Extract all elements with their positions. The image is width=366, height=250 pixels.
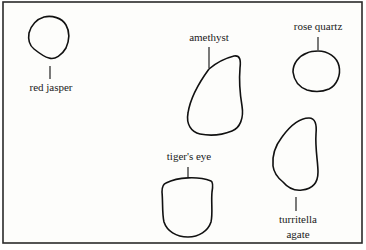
tigers-eye-label: tiger's eye xyxy=(167,150,212,162)
turritella-agate-label-line-2: agate xyxy=(286,228,309,240)
turritella-agate-label-line-1: turritella xyxy=(279,213,317,225)
stones-diagram: red jasper amethyst rose quartz turritel… xyxy=(0,0,366,250)
amethyst-label: amethyst xyxy=(189,31,229,43)
diagram-frame xyxy=(3,2,362,243)
red-jasper-label: red jasper xyxy=(29,81,72,93)
rose-quartz-label: rose quartz xyxy=(294,20,343,32)
